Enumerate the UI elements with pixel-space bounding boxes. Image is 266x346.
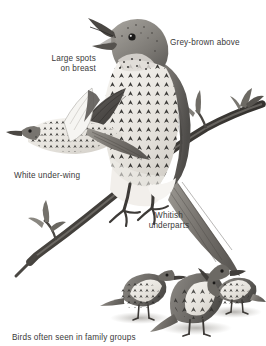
illustration-plate: Grey-brown above Large spots on breast W…	[0, 0, 266, 346]
label-grey-brown-above: Grey-brown above	[170, 38, 240, 48]
bird-eye	[128, 33, 135, 40]
label-large-spots-on-breast: Large spots on breast	[28, 54, 96, 73]
label-whitish-underparts: Whitish underparts	[141, 211, 197, 230]
label-white-under-wing: White under-wing	[14, 171, 80, 181]
caption-family-groups: Birds often seen in family groups	[12, 333, 136, 343]
